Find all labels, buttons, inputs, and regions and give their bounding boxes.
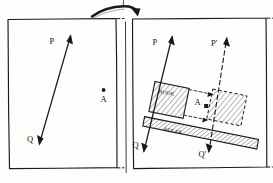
right-vector-label-p-prime: P' <box>211 38 218 48</box>
guide-line-lower <box>184 115 206 120</box>
curved-arrow-head <box>131 8 141 17</box>
left-panel: P Q A <box>8 19 124 169</box>
guide-line-upper <box>189 90 211 95</box>
top-annotation-group <box>92 1 141 19</box>
book-group: BOOK <box>149 82 189 119</box>
left-vector-line <box>40 36 71 144</box>
left-vector-head-q <box>37 135 44 145</box>
right-vector-translated-head-p <box>223 37 230 47</box>
figure-root: P Q A RULER BOOK <box>0 0 273 183</box>
left-point-a-label: A <box>101 94 108 104</box>
right-point-a-label: A <box>195 97 202 107</box>
panel-divider-line <box>126 22 127 173</box>
left-vector-label-q: Q <box>27 134 33 144</box>
right-panel: RULER BOOK P Q <box>126 18 273 172</box>
right-vector-label-q-prime: Q' <box>199 149 207 159</box>
right-vector-label-p: P <box>153 37 158 47</box>
curved-arrow-right <box>92 6 137 16</box>
right-vector-translated-head-q <box>206 143 213 153</box>
left-vector-label-p: P <box>50 36 55 46</box>
book-body <box>149 82 189 119</box>
figure-canvas: P Q A RULER BOOK <box>0 0 273 183</box>
left-vector-head-p <box>66 34 73 44</box>
left-point-a-dot <box>102 88 106 92</box>
right-vector-label-q: Q <box>133 140 139 150</box>
right-point-a-marker <box>204 104 208 108</box>
